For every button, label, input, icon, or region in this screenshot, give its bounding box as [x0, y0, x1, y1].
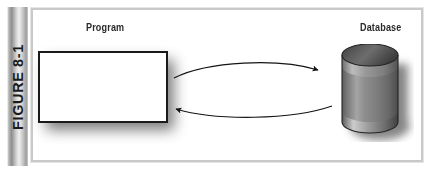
database-node-cylinder — [338, 44, 414, 142]
program-node-box — [38, 51, 168, 123]
program-node-label: Program — [86, 21, 124, 33]
database-cylinder-icon — [338, 44, 414, 142]
figure-spine-bar: FIGURE 8-1 — [7, 7, 28, 166]
figure-root: FIGURE 8-1 Program Database — [0, 0, 440, 172]
figure-number-label: FIGURE 8-1 — [10, 44, 26, 130]
database-node-label: Database — [360, 21, 401, 33]
